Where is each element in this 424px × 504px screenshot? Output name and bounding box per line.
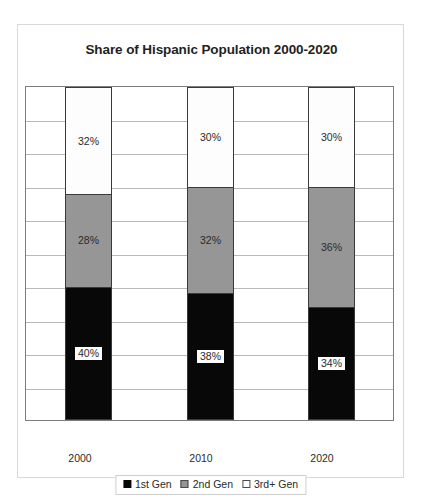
bar-segment-1st-gen[interactable]: 40% (65, 287, 112, 420)
bar-segment-label: 34% (318, 357, 345, 370)
bar-segment-3rd-plus-gen[interactable]: 30% (187, 87, 234, 187)
legend-swatch-icon (242, 480, 250, 488)
bar-segment-label: 32% (78, 136, 99, 147)
bar-group-2000[interactable]: 40% 28% 32% (65, 87, 112, 420)
bar-segment-label: 40% (75, 347, 102, 360)
legend-swatch-icon (123, 480, 131, 488)
bar-segment-label: 32% (200, 235, 221, 246)
bar-segment-3rd-plus-gen[interactable]: 30% (308, 87, 355, 187)
bar-segment-1st-gen[interactable]: 34% (308, 307, 355, 420)
bar-segment-2nd-gen[interactable]: 28% (65, 194, 112, 287)
x-axis-tick-label: 2020 (272, 452, 372, 464)
chart-figure: Share of Hispanic Population 2000-2020 4… (17, 24, 404, 478)
bar-segment-label: 38% (197, 350, 224, 363)
legend-item-1st-gen[interactable]: 1st Gen (123, 479, 172, 490)
legend-item-3rd-plus-gen[interactable]: 3rd+ Gen (242, 479, 298, 490)
legend-swatch-icon (181, 480, 189, 488)
legend-item-2nd-gen[interactable]: 2nd Gen (181, 479, 233, 490)
x-axis-tick-label: 2010 (151, 452, 251, 464)
bar-group-2010[interactable]: 38% 32% 30% (187, 87, 234, 420)
chart-legend: 1st Gen 2nd Gen 3rd+ Gen (115, 475, 306, 495)
legend-label: 2nd Gen (193, 479, 233, 490)
bar-segment-3rd-plus-gen[interactable]: 32% (65, 87, 112, 194)
chart-title: Share of Hispanic Population 2000-2020 (18, 42, 405, 57)
x-axis-tick-label: 2000 (30, 452, 130, 464)
plot-area: 40% 28% 32% 38% 32% 30% 34% (25, 86, 394, 421)
bar-segment-label: 36% (321, 242, 342, 253)
bar-group-2020[interactable]: 34% 36% 30% (308, 87, 355, 420)
legend-label: 3rd+ Gen (254, 479, 298, 490)
legend-label: 1st Gen (135, 479, 172, 490)
bar-segment-2nd-gen[interactable]: 36% (308, 187, 355, 307)
bar-segment-2nd-gen[interactable]: 32% (187, 187, 234, 294)
bar-segment-label: 28% (78, 235, 99, 246)
bar-segment-label: 30% (321, 132, 342, 143)
bar-segment-label: 30% (200, 132, 221, 143)
bar-segment-1st-gen[interactable]: 38% (187, 293, 234, 420)
